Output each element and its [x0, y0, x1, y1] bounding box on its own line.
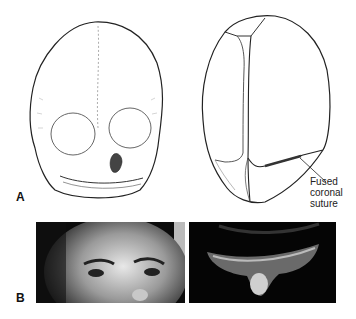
- annotation-line-1: Fused: [310, 176, 343, 187]
- panel-label-a: A: [16, 191, 25, 203]
- photo-vertex-view: [189, 222, 336, 303]
- panel-label-b: B: [16, 292, 25, 304]
- skull-frontal-drawing: [25, 18, 170, 203]
- fused-coronal-suture-annotation: Fused coronal suture: [310, 176, 343, 209]
- annotation-line-2: coronal: [310, 187, 343, 198]
- annotation-line-3: suture: [310, 198, 343, 209]
- photo-frontal-face: [36, 222, 185, 303]
